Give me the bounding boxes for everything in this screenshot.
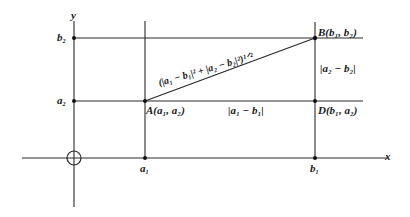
point-label-A: A(a₁, a₂) (146, 105, 185, 116)
point-B (313, 36, 317, 40)
dot-a2 (72, 99, 76, 103)
tick-label-b1: b1 (310, 163, 319, 175)
y-axis-label: y (71, 10, 76, 21)
x-axis-label: x (385, 151, 391, 162)
label-vertical-distance: |a₂ − b₂| (320, 63, 356, 74)
segment-AB (145, 38, 315, 101)
point-D (313, 99, 317, 103)
dot-b2 (72, 36, 76, 40)
point-label-D: D(b₁, a₂) (318, 105, 357, 116)
tick-label-a1: a1 (140, 163, 149, 175)
point-label-B: B(b₁, b₂) (318, 27, 357, 38)
tick-label-b2: b2 (57, 32, 66, 44)
dot-b1 (313, 156, 317, 160)
dot-a1 (143, 156, 147, 160)
tick-label-a2: a2 (57, 95, 66, 107)
label-horizontal-distance: |a₁ − b₁| (228, 105, 264, 116)
point-A (143, 99, 147, 103)
